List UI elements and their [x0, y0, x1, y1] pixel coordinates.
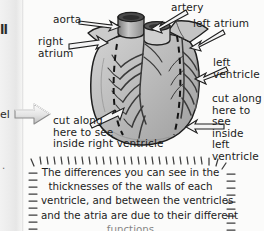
caption-text: The differences you can see in the thick…	[27, 156, 234, 231]
label-cut-right-ventricle: cut along here to see inside right ventr…	[53, 115, 163, 150]
caption-line-partial: functions	[41, 222, 220, 231]
page-canvas: ll el .	[0, 0, 264, 231]
caption-line-1: The differences you can see in the	[41, 165, 220, 179]
label-artery: artery	[171, 2, 203, 14]
caption-line-3: ventricle, and between the ventricles	[41, 193, 220, 207]
margin-block-arrow	[15, 104, 50, 124]
label-left-ventricle: left ventricle	[213, 57, 260, 80]
label-aorta: aorta	[53, 14, 81, 26]
label-right-atrium: right atrium	[38, 36, 73, 59]
caption-line-2: thicknesses of the walls of each	[41, 179, 220, 193]
label-left-atrium: left atrium	[193, 18, 249, 30]
caption-line-4: and the atria are due to their different	[41, 208, 220, 222]
